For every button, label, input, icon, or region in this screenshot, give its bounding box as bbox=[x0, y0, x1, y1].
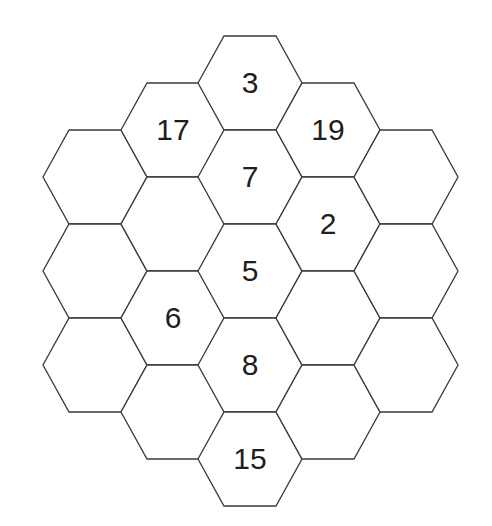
hex-cell-value: 3 bbox=[242, 66, 259, 99]
hex-cell-value: 5 bbox=[242, 254, 259, 287]
hex-cells: 176375815192 bbox=[43, 36, 458, 506]
hex-cell-value: 2 bbox=[320, 207, 337, 240]
hex-grid-board: 176375815192 bbox=[0, 0, 492, 526]
hex-cell-value: 6 bbox=[165, 301, 182, 334]
hex-cell-value: 7 bbox=[242, 160, 259, 193]
hex-cell-value: 17 bbox=[156, 113, 189, 146]
hex-cell-value: 19 bbox=[311, 113, 344, 146]
hex-cell-value: 8 bbox=[242, 348, 259, 381]
hex-cell-value: 15 bbox=[233, 442, 266, 475]
